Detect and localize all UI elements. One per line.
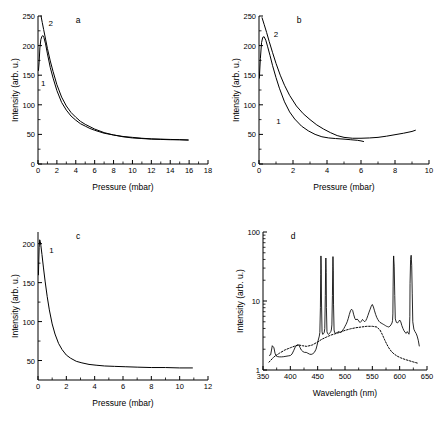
curve-label-2: 2 <box>274 30 279 39</box>
y-tick-label: 100 <box>22 318 35 327</box>
panel-letter-d: d <box>291 231 296 241</box>
curve-2 <box>41 16 188 140</box>
y-tick-label: 100 <box>243 101 256 110</box>
x-tick-label: 10 <box>425 166 433 175</box>
panel-b: 024681005010015020025012bPressure (mbar)… <box>221 0 442 216</box>
axis-lines <box>38 232 208 380</box>
curves-group <box>259 18 415 142</box>
y-tick-label: 50 <box>248 130 256 139</box>
x-tick-label: 0 <box>36 166 40 175</box>
x-tick-label: 6 <box>359 166 363 175</box>
x-axis-title: Wavelength (nm) <box>313 388 378 398</box>
y-tick-label: 100 <box>22 101 35 110</box>
x-tick-label: 12 <box>147 166 155 175</box>
x-tick-label: 2 <box>291 166 295 175</box>
curve-label-1: 1 <box>276 117 281 126</box>
x-tick-label: 12 <box>204 382 212 391</box>
y-axis-title: Intensity (arb. u.) <box>231 58 241 122</box>
y-axis-title: Intensity (arb. u.) <box>10 58 20 122</box>
panel-c: 024681012501001502001cPressure (mbar)Int… <box>0 216 221 432</box>
curve-2 <box>262 18 415 138</box>
x-tick-label: 10 <box>175 382 183 391</box>
y-axis-title: Intensity (arb. u.) <box>235 269 245 333</box>
x-axis-title: Pressure (mbar) <box>313 182 375 192</box>
x-tick-label: 650 <box>421 372 434 381</box>
x-tick-label: 6 <box>93 166 97 175</box>
curve-label-2: 2 <box>49 19 54 28</box>
x-tick-label: 400 <box>284 372 297 381</box>
curve-spectrum <box>269 255 419 357</box>
x-tick-label: 18 <box>204 166 212 175</box>
x-tick-label: 14 <box>166 166 174 175</box>
y-tick-label: 50 <box>27 130 35 139</box>
axis-lines <box>259 16 429 164</box>
x-tick-label: 0 <box>257 166 261 175</box>
curve-1 <box>38 240 192 368</box>
plot-a: 02468101214161805010015020025012aPressur… <box>0 0 221 216</box>
x-tick-label: 8 <box>149 382 153 391</box>
curve-label-1: 1 <box>41 79 46 88</box>
y-tick-label: 200 <box>243 42 256 51</box>
panel-letter-c: c <box>76 231 81 241</box>
x-tick-label: 550 <box>366 372 379 381</box>
y-tick-label: 250 <box>22 12 35 21</box>
panel-d: 350400450500550600650110100dWavelength (… <box>221 216 442 432</box>
x-tick-label: 16 <box>185 166 193 175</box>
y-tick-label: 0 <box>31 160 35 169</box>
panel-a: 02468101214161805010015020025012aPressur… <box>0 0 221 216</box>
y-tick-label: 100 <box>247 228 260 237</box>
x-tick-label: 4 <box>325 166 329 175</box>
x-tick-label: 10 <box>128 166 136 175</box>
panel-letter-b: b <box>297 15 302 25</box>
x-tick-label: 6 <box>121 382 125 391</box>
y-tick-label: 250 <box>243 12 256 21</box>
curves-group <box>38 240 192 368</box>
plot-d: 350400450500550600650110100dWavelength (… <box>221 216 442 432</box>
y-axis-title: Intensity (arb. u.) <box>10 274 20 338</box>
x-tick-label: 600 <box>393 372 406 381</box>
curves-group <box>269 255 419 363</box>
x-tick-label: 2 <box>55 166 59 175</box>
x-tick-label: 4 <box>93 382 97 391</box>
curves-group <box>38 16 188 140</box>
x-tick-label: 500 <box>339 372 352 381</box>
y-tick-label: 10 <box>252 297 260 306</box>
curve-baseline <box>269 326 418 363</box>
x-tick-label: 2 <box>64 382 68 391</box>
y-tick-label: 150 <box>22 71 35 80</box>
plot-c: 024681012501001502001cPressure (mbar)Int… <box>0 216 221 432</box>
figure-container: 02468101214161805010015020025012aPressur… <box>0 0 442 432</box>
y-tick-label: 0 <box>252 160 256 169</box>
x-tick-label: 0 <box>36 382 40 391</box>
x-tick-label: 8 <box>111 166 115 175</box>
x-axis-title: Pressure (mbar) <box>92 398 154 408</box>
y-tick-label: 150 <box>243 71 256 80</box>
y-tick-label: 200 <box>22 240 35 249</box>
x-axis-title: Pressure (mbar) <box>92 182 154 192</box>
curve-label-1: 1 <box>49 246 54 255</box>
curve-1 <box>38 36 188 140</box>
axis-lines <box>38 16 208 164</box>
x-tick-label: 4 <box>74 166 78 175</box>
y-tick-label: 50 <box>27 357 35 366</box>
y-tick-label: 150 <box>22 279 35 288</box>
x-tick-label: 450 <box>311 372 324 381</box>
plot-b: 024681005010015020025012bPressure (mbar)… <box>221 0 442 216</box>
y-tick-label: 200 <box>22 42 35 51</box>
y-tick-label: 1 <box>256 366 260 375</box>
x-tick-label: 8 <box>393 166 397 175</box>
curve-1 <box>259 37 363 142</box>
panel-letter-a: a <box>76 15 81 25</box>
